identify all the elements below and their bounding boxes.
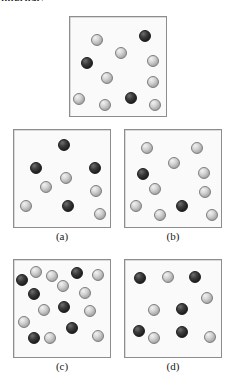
panel-reference-contents xyxy=(70,17,166,116)
dark-sphere xyxy=(176,200,188,212)
figure-page: internal? (a)(b)(c)(d) xyxy=(0,0,236,374)
panel-c-contents xyxy=(14,260,110,357)
light-sphere xyxy=(90,185,102,197)
light-sphere xyxy=(149,183,161,195)
light-sphere xyxy=(30,266,42,278)
light-sphere xyxy=(20,200,32,212)
light-sphere xyxy=(99,99,111,111)
light-sphere xyxy=(149,99,161,111)
light-sphere xyxy=(46,270,58,282)
panel-label-c: (c) xyxy=(12,360,112,372)
light-sphere xyxy=(79,287,91,299)
light-sphere xyxy=(206,209,218,221)
light-sphere xyxy=(18,316,30,328)
light-sphere xyxy=(73,93,85,105)
panel-a xyxy=(13,129,111,228)
dark-sphere xyxy=(125,92,137,104)
dark-sphere xyxy=(28,288,40,300)
dark-sphere xyxy=(133,325,145,337)
light-sphere xyxy=(201,292,213,304)
light-sphere xyxy=(191,142,203,154)
light-sphere xyxy=(92,330,104,342)
panel-c xyxy=(13,259,111,358)
light-sphere xyxy=(148,332,160,344)
light-sphere xyxy=(162,271,174,283)
light-sphere xyxy=(199,186,211,198)
light-sphere xyxy=(130,200,142,212)
light-sphere xyxy=(141,142,153,154)
light-sphere xyxy=(57,280,69,292)
dark-sphere xyxy=(66,322,78,334)
light-sphere xyxy=(92,269,104,281)
light-sphere xyxy=(148,304,160,316)
light-sphere xyxy=(147,55,159,67)
light-sphere xyxy=(84,305,96,317)
dark-sphere xyxy=(134,272,146,284)
light-sphere xyxy=(38,304,50,316)
panel-d-contents xyxy=(125,260,221,357)
dark-sphere xyxy=(58,139,70,151)
light-sphere xyxy=(94,208,106,220)
dark-sphere xyxy=(28,332,40,344)
dark-sphere xyxy=(139,30,151,42)
light-sphere xyxy=(115,47,127,59)
dark-sphere xyxy=(71,267,83,279)
dark-sphere xyxy=(176,326,188,338)
panel-b-contents xyxy=(125,130,221,227)
dark-sphere xyxy=(81,57,93,69)
dark-sphere xyxy=(58,301,70,313)
panel-label-b: (b) xyxy=(123,230,223,242)
dark-sphere xyxy=(189,271,201,283)
dark-sphere xyxy=(89,162,101,174)
dark-sphere xyxy=(30,162,42,174)
light-sphere xyxy=(204,331,216,343)
light-sphere xyxy=(40,181,52,193)
light-sphere xyxy=(60,172,72,184)
dark-sphere xyxy=(62,200,74,212)
light-sphere xyxy=(147,76,159,88)
panel-b xyxy=(124,129,222,228)
panel-reference xyxy=(69,16,167,117)
panel-label-a: (a) xyxy=(12,230,112,242)
clipped-heading-text: internal? xyxy=(1,0,46,1)
light-sphere xyxy=(44,332,56,344)
panel-label-d: (d) xyxy=(123,360,223,372)
panel-a-contents xyxy=(14,130,110,227)
light-sphere xyxy=(154,209,166,221)
light-sphere xyxy=(101,72,113,84)
dark-sphere xyxy=(16,274,28,286)
panel-d xyxy=(124,259,222,358)
light-sphere xyxy=(198,167,210,179)
light-sphere xyxy=(168,157,180,169)
dark-sphere xyxy=(176,303,188,315)
light-sphere xyxy=(91,34,103,46)
dark-sphere xyxy=(137,168,149,180)
